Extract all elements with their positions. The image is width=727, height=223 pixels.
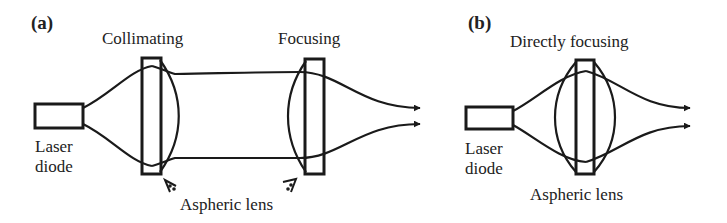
laser-diode-b <box>466 107 513 129</box>
panel-b-tag: (b) <box>468 14 491 32</box>
collimating-label: Collimating <box>102 30 183 48</box>
aspheric-lens-label-a: Aspheric lens <box>180 196 273 214</box>
laser-label-b-line1: Laser <box>465 140 503 158</box>
focusing-lens-b <box>576 60 594 174</box>
focusing-label: Focusing <box>278 30 340 48</box>
panel-a-drawing <box>35 58 420 192</box>
optics-diagram: (a) Collimating Focusing Laser diode Asp… <box>0 0 727 223</box>
directly-focusing-label: Directly focusing <box>510 33 629 51</box>
aspheric-pointer-right <box>283 179 296 192</box>
panel-a-tag: (a) <box>31 14 53 32</box>
laser-label-a-line2: diode <box>35 158 73 176</box>
aspheric-pointer-left <box>165 180 176 192</box>
laser-label-b-line2: diode <box>465 160 503 178</box>
aspheric-lens-label-b: Aspheric lens <box>530 186 623 204</box>
laser-diode-a <box>35 104 83 128</box>
laser-label-a-line1: Laser <box>35 138 73 156</box>
collimating-lens-a <box>142 58 161 174</box>
